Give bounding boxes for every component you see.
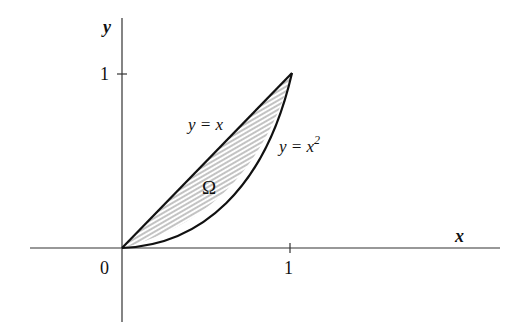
parabola-label-base: y = x [277, 137, 315, 156]
line-label: y = x [186, 115, 224, 134]
parabola-label: y = x2 [277, 133, 320, 156]
curve-y-equals-x [122, 73, 292, 248]
y-axis-label: y [101, 17, 112, 37]
diagram-canvas: y x 1 1 0 y = x y = x2 Ω [0, 0, 517, 331]
parabola-label-exponent: 2 [314, 133, 320, 147]
x-tick-label: 1 [284, 258, 293, 278]
x-axis-label: x [454, 226, 464, 246]
origin-label: 0 [100, 258, 109, 278]
y-tick-label: 1 [100, 64, 109, 84]
region-label: Ω [202, 177, 216, 198]
